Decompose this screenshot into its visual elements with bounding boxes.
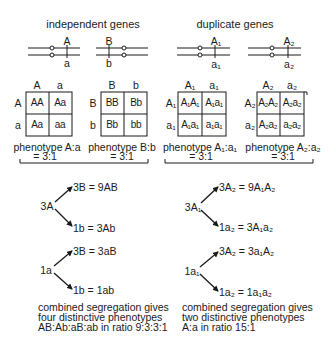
allele-label: A₁ xyxy=(211,36,222,47)
col-header: a₁ xyxy=(209,80,218,91)
row-header: A₂ xyxy=(244,98,255,109)
row-header: a xyxy=(15,120,21,131)
tree-branch: 3A₂ = 9A₁A₂ xyxy=(219,182,275,193)
grid-cell: a₁a₁ xyxy=(206,120,222,130)
grid-cell: A₂A₂ xyxy=(258,98,278,108)
tree-branch: 1a₂ = 3A₁a₂ xyxy=(219,222,273,233)
grid-cell: A₂a₂ xyxy=(259,120,277,130)
chromosome-pair-a2 xyxy=(248,45,301,58)
tree-arrows-independent xyxy=(54,187,72,289)
phenotype-ratio: = 3:1 xyxy=(110,151,134,162)
grid-cell: AA xyxy=(31,98,44,108)
tree-branch: 3B = 9AB xyxy=(73,182,118,193)
diagram-graphics xyxy=(0,0,333,338)
grid-cell: Bb xyxy=(130,98,141,108)
allele-label: a₁ xyxy=(211,59,220,70)
summary-line: AB:Ab:aB:ab in ratio 9:3:3:1 xyxy=(38,322,169,332)
row-header: A₁ xyxy=(166,98,177,109)
summary-independent: combined segregation gives four distinct… xyxy=(38,302,169,332)
tree-branch: 3B = 3aB xyxy=(73,246,117,257)
row-header: b xyxy=(90,120,96,131)
row-header: B xyxy=(89,98,96,109)
grid-cell: Aa xyxy=(31,120,42,130)
tree-arrows-duplicate xyxy=(200,187,218,291)
allele-label: A₂ xyxy=(283,36,294,47)
row-header: a₁ xyxy=(166,120,175,131)
grid-cell: Bb xyxy=(106,120,117,130)
grid-cell: bb xyxy=(131,120,141,130)
allele-label: a₂ xyxy=(284,59,294,70)
chromosome-pair-a xyxy=(28,45,80,58)
grid-cell: aa xyxy=(55,120,65,130)
grid-cell: Aa xyxy=(54,98,65,108)
phenotype-ratio: = 3:1 xyxy=(33,151,57,162)
grid-cell: A₂a₂ xyxy=(283,98,301,108)
grid-cell: BB xyxy=(106,98,119,108)
allele-label: B xyxy=(105,36,112,47)
col-header: A xyxy=(33,80,40,91)
col-header: A₁ xyxy=(185,80,196,91)
phenotype-ratio: = 3:1 xyxy=(189,151,213,162)
col-header: B xyxy=(108,80,115,91)
tree-root: 1a xyxy=(40,265,52,276)
grid-cell: A₁a₁ xyxy=(205,98,222,108)
summary-line: A:a in ratio 15:1 xyxy=(182,322,313,332)
col-header: A₂ xyxy=(262,80,273,91)
grid-cell: A₁A₁ xyxy=(181,98,200,108)
title-independent-genes: independent genes xyxy=(46,19,140,30)
tree-root: 1a₁ xyxy=(184,266,199,277)
tree-branch: 3A₂ = 3a₁A₂ xyxy=(219,246,274,257)
phenotype-ratio: = 3:1 xyxy=(271,151,295,162)
tree-root: 3A xyxy=(41,201,54,212)
chromosome-pair-a1 xyxy=(177,45,230,58)
grid-cell: A₁a₁ xyxy=(181,120,198,130)
allele-label: b xyxy=(106,58,112,69)
col-header: b xyxy=(133,80,139,91)
summary-duplicate: combined segregation gives two distincti… xyxy=(182,302,313,332)
genetics-diagram: independent genes duplicate genes A a B … xyxy=(0,0,333,338)
allele-label: a xyxy=(64,58,70,69)
tree-branch: 1b = 3Ab xyxy=(73,223,115,234)
chromosome-pair-b xyxy=(96,45,148,58)
tree-root: 3A₁ xyxy=(185,202,201,213)
tree-branch: 1a₂ = 1a₁a₂ xyxy=(219,287,272,298)
row-header: A xyxy=(14,98,21,109)
tree-branch: 1b = 1ab xyxy=(73,285,114,296)
col-header: a₂ xyxy=(287,80,297,91)
col-header: a xyxy=(57,80,63,91)
row-header: a₂ xyxy=(245,120,255,131)
allele-label: A xyxy=(63,36,70,47)
title-duplicate-genes: duplicate genes xyxy=(196,19,273,30)
grid-cell: a₂a₂ xyxy=(283,120,300,130)
